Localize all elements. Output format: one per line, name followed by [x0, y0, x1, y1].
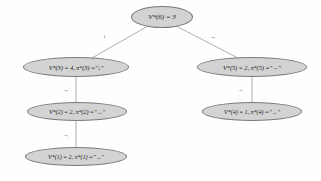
- node-n3-label: V*(3) = 4, π*(3) ="↓": [49, 64, 104, 71]
- node-n4-label: V*(4) = 1, π*(4) ="→": [224, 108, 280, 115]
- node-n2-label: V*(2) = 2, π*(2) ="→": [49, 108, 105, 115]
- node-n1[interactable]: V*(1) = 2, π*(1) ="→": [25, 147, 127, 166]
- node-n6-label: V*(6) = 3: [148, 13, 176, 21]
- node-n5-label: V*(5) = 2, π*(5) ="→": [223, 64, 281, 71]
- node-n4[interactable]: V*(4) = 1, π*(4) ="→": [202, 102, 302, 121]
- edge-label-n2-n1: →: [63, 132, 69, 138]
- edge-n6-n5: [176, 26, 238, 58]
- node-n6[interactable]: V*(6) = 3: [131, 6, 193, 28]
- node-n2[interactable]: V*(2) = 2, π*(2) ="→": [27, 102, 127, 121]
- node-n3[interactable]: V*(3) = 4, π*(3) ="↓": [23, 57, 129, 77]
- node-n5[interactable]: V*(5) = 2, π*(5) ="→": [197, 57, 307, 77]
- edge-label-n6-n3: ↓: [103, 33, 106, 39]
- node-n1-label: V*(1) = 2, π*(1) ="→": [48, 153, 104, 160]
- edge-label-n3-n2: →: [63, 87, 69, 93]
- diagram-canvas: V*(6) = 3 V*(3) = 4, π*(3) ="↓" V*(2) = …: [0, 0, 321, 181]
- edge-label-n6-n5: →: [210, 34, 216, 40]
- edge-label-n5-n4: →: [238, 87, 244, 93]
- edge-n6-n3: [92, 26, 148, 58]
